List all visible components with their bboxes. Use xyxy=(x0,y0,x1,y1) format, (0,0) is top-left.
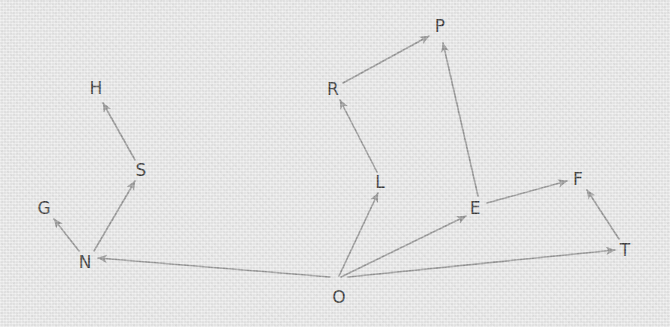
node-label-f: F xyxy=(573,171,583,188)
edge-e-to-p xyxy=(443,43,478,196)
edge-t-to-f xyxy=(587,190,619,239)
node-label-s: S xyxy=(136,162,147,179)
node-label-l: L xyxy=(375,174,384,191)
edge-group xyxy=(54,36,619,277)
edge-n-to-g xyxy=(54,219,79,251)
node-label-n: N xyxy=(79,254,92,271)
node-label-o: O xyxy=(332,289,345,306)
edge-n-to-s xyxy=(94,181,135,251)
node-label-r: R xyxy=(327,81,339,98)
graph-edges-layer xyxy=(0,0,670,327)
edge-s-to-h xyxy=(103,103,135,160)
edge-o-to-e xyxy=(341,216,466,277)
edge-e-to-f xyxy=(487,181,567,203)
node-label-p: P xyxy=(435,18,445,35)
node-label-t: T xyxy=(620,242,630,259)
edge-l-to-r xyxy=(340,100,377,172)
node-label-h: H xyxy=(90,80,103,97)
edge-o-to-l xyxy=(339,193,378,276)
graph-canvas: HSGNPRLEFTO xyxy=(0,0,670,327)
node-label-e: E xyxy=(470,200,481,217)
node-label-g: G xyxy=(37,200,50,217)
edge-o-to-n xyxy=(98,258,330,277)
edge-r-to-p xyxy=(343,36,429,83)
